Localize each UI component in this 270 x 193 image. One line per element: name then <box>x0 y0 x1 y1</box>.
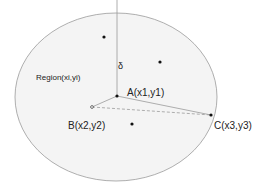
diagram-canvas: Region(xi,yi) δ A(x1,y1) B(x2,y2) C(x3,y… <box>0 0 270 193</box>
scatter-point-3 <box>130 122 133 125</box>
point-a-label: A(x1,y1) <box>127 88 164 98</box>
point-b <box>91 106 94 109</box>
delta-label: δ <box>118 62 123 71</box>
scatter-point-1 <box>102 35 105 38</box>
point-c <box>209 113 212 116</box>
point-c-label: C(x3,y3) <box>214 121 252 131</box>
region-label: Region(xi,yi) <box>36 74 80 82</box>
point-a <box>115 94 118 97</box>
scatter-point-2 <box>158 60 161 63</box>
point-b-label: B(x2,y2) <box>68 121 105 131</box>
